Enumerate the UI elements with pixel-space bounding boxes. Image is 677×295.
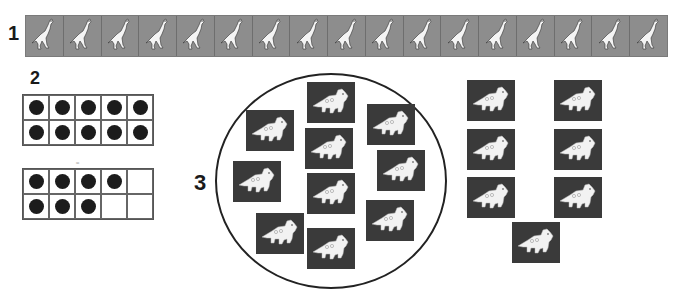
ten-frame-cell xyxy=(75,194,101,219)
triceratops-icon xyxy=(558,181,598,215)
triceratops-icon xyxy=(309,132,349,166)
ten-frame-cell xyxy=(127,194,153,219)
counter-dot xyxy=(81,199,96,214)
dinosaur-tile xyxy=(290,16,328,56)
triceratops-icon xyxy=(250,114,290,148)
triceratops-icon xyxy=(516,226,556,260)
running-dinosaur-icon xyxy=(218,17,248,55)
triceratops-icon xyxy=(558,84,598,118)
running-dinosaur-icon xyxy=(332,17,362,55)
circle-triceratops-tile xyxy=(233,161,281,202)
dinosaur-tile xyxy=(102,16,140,56)
dinosaur-tile xyxy=(517,16,555,56)
circle-triceratops-tile xyxy=(246,110,294,151)
ten-frame-cell xyxy=(75,95,101,120)
triceratops-icon xyxy=(311,232,351,266)
side-triceratops-tile xyxy=(554,129,602,170)
triceratops-icon xyxy=(371,108,411,142)
circle-triceratops-tile xyxy=(307,82,355,123)
running-dinosaur-icon xyxy=(445,17,475,55)
circle-triceratops-tile xyxy=(377,150,425,191)
triceratops-icon xyxy=(370,204,410,238)
counter-dot xyxy=(107,100,122,115)
dinosaur-tile xyxy=(555,16,593,56)
running-dinosaur-icon xyxy=(558,17,588,55)
ten-frame-cell xyxy=(127,120,153,145)
section-2-label: 2 xyxy=(30,68,40,89)
counter-dot xyxy=(29,174,44,189)
counter-dot xyxy=(55,199,70,214)
side-triceratops-tile xyxy=(554,177,602,218)
ten-frame-cell xyxy=(101,120,127,145)
ten-frame-seven xyxy=(22,168,154,220)
side-triceratops-tile xyxy=(467,177,515,218)
ten-frame-cell xyxy=(127,95,153,120)
triceratops-icon xyxy=(558,133,598,167)
counter-dot xyxy=(55,100,70,115)
counter-dot xyxy=(29,125,44,140)
dinosaur-tile xyxy=(215,16,253,56)
ten-frame-cell xyxy=(23,194,49,219)
ten-frame-cell xyxy=(49,169,75,194)
running-dinosaur-icon xyxy=(29,17,59,55)
triceratops-icon xyxy=(381,154,421,188)
circle-triceratops-tile xyxy=(307,228,355,269)
dinosaur-tile xyxy=(404,16,442,56)
counter-dot xyxy=(29,199,44,214)
ten-frame-cell xyxy=(101,169,127,194)
triceratops-icon xyxy=(471,181,511,215)
running-dinosaur-icon xyxy=(520,17,550,55)
side-triceratops-tile xyxy=(554,80,602,121)
dinosaur-tile xyxy=(479,16,517,56)
ten-frame-cell xyxy=(101,194,127,219)
running-dinosaur-icon xyxy=(369,17,399,55)
counter-dot xyxy=(81,100,96,115)
circle-triceratops-tile xyxy=(366,200,414,241)
counter-dot xyxy=(133,125,148,140)
counter-dot xyxy=(81,174,96,189)
circle-triceratops-tile xyxy=(305,128,353,169)
running-dinosaur-icon xyxy=(105,17,135,55)
side-triceratops-tile xyxy=(512,222,560,263)
small-mark: ≈ xyxy=(76,160,79,166)
section-1-label: 1 xyxy=(8,22,19,45)
dinosaur-tile xyxy=(328,16,366,56)
triceratops-icon xyxy=(311,177,351,211)
dinosaur-tile xyxy=(64,16,102,56)
running-dinosaur-icon xyxy=(634,17,664,55)
running-dinosaur-icon xyxy=(294,17,324,55)
triceratops-icon xyxy=(237,165,277,199)
ten-frame-cell xyxy=(75,169,101,194)
side-triceratops-tile xyxy=(467,129,515,170)
ten-frame-cell xyxy=(75,120,101,145)
circle-triceratops-tile xyxy=(307,173,355,214)
running-dinosaur-icon xyxy=(143,17,173,55)
running-dinosaur-icon xyxy=(407,17,437,55)
dinosaur-tile xyxy=(366,16,404,56)
triceratops-icon xyxy=(471,84,511,118)
counter-dot xyxy=(55,125,70,140)
ten-frame-cell xyxy=(23,120,49,145)
dinosaur-tile xyxy=(253,16,291,56)
ten-frame-cell xyxy=(49,194,75,219)
section-3-label: 3 xyxy=(194,170,206,196)
triceratops-icon xyxy=(471,133,511,167)
ten-frame-cell xyxy=(101,95,127,120)
dinosaur-tile xyxy=(139,16,177,56)
dinosaur-tile xyxy=(592,16,630,56)
circle-triceratops-tile xyxy=(367,104,415,145)
dinosaur-tile xyxy=(441,16,479,56)
counter-dot xyxy=(29,100,44,115)
counter-dot xyxy=(107,174,122,189)
ten-frame-cell xyxy=(49,95,75,120)
dinosaur-strip xyxy=(25,15,668,57)
triceratops-icon xyxy=(260,217,300,251)
counter-dot xyxy=(107,125,122,140)
running-dinosaur-icon xyxy=(256,17,286,55)
ten-frame-cell xyxy=(23,95,49,120)
running-dinosaur-icon xyxy=(180,17,210,55)
ten-frame-cell xyxy=(49,120,75,145)
dinosaur-tile xyxy=(177,16,215,56)
ten-frame-cell xyxy=(23,169,49,194)
dinosaur-tile xyxy=(630,16,667,56)
